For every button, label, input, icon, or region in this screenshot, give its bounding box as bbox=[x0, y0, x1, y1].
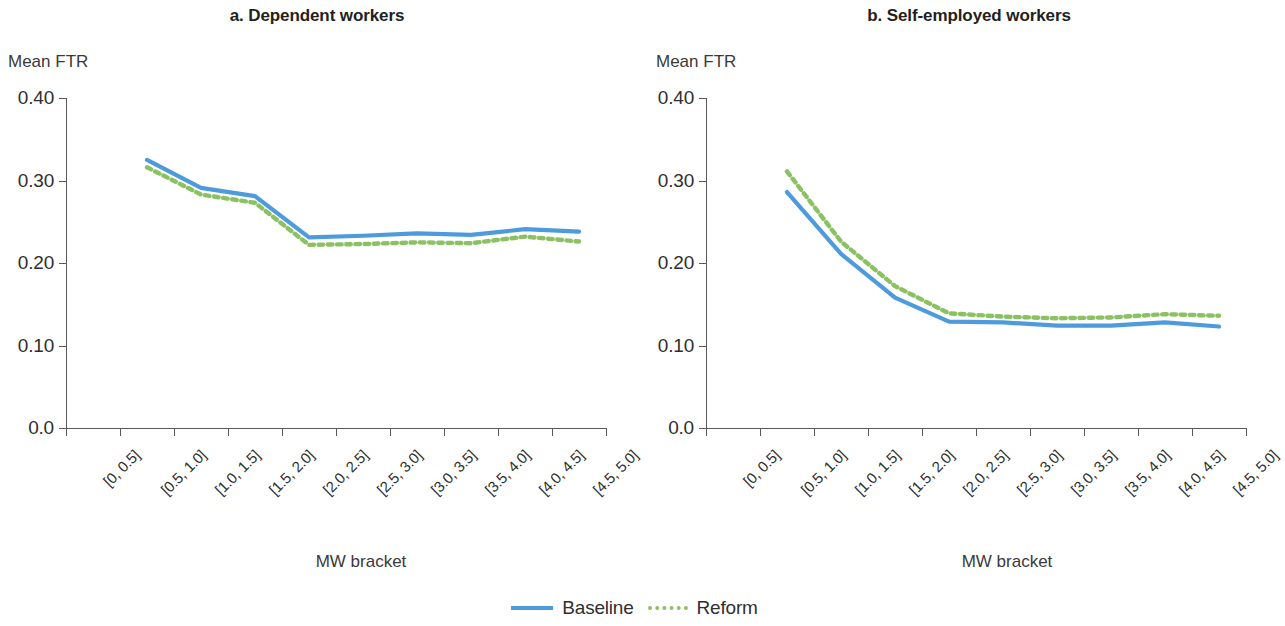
x-tick-label-a-1: [0.5, 1.0] bbox=[157, 446, 209, 498]
x-tick-label-a-6: [3.0, 3.5] bbox=[427, 446, 479, 498]
x-tick-b-3 bbox=[868, 428, 869, 436]
y-tick-label-b-3: 0.30 bbox=[658, 169, 694, 191]
y-tick-label-b-2: 0.20 bbox=[658, 252, 694, 274]
y-tick-a-1 bbox=[59, 346, 66, 347]
x-tick-label-b-6: [3.0, 3.5] bbox=[1067, 446, 1119, 498]
x-axis-title-b: MW bracket bbox=[634, 552, 1285, 572]
legend-swatch-reform-icon bbox=[648, 606, 688, 610]
x-tick-label-b-1: [0.5, 1.0] bbox=[797, 446, 849, 498]
y-axis-label-a: Mean FTR bbox=[8, 52, 88, 72]
y-tick-label-b-0: 0.0 bbox=[668, 417, 694, 439]
y-tick-b-3 bbox=[699, 181, 706, 182]
x-tick-label-b-2: [1.0, 1.5] bbox=[851, 446, 903, 498]
series-svg-a bbox=[66, 98, 606, 428]
x-tick-b-4 bbox=[922, 428, 923, 436]
x-tick-a-0 bbox=[66, 428, 67, 436]
y-axis-label-b: Mean FTR bbox=[656, 52, 736, 72]
y-tick-a-4 bbox=[59, 98, 66, 99]
series-line-b-reform bbox=[787, 171, 1219, 318]
x-tick-a-7 bbox=[444, 428, 445, 436]
x-tick-label-b-7: [3.5, 4.0] bbox=[1121, 446, 1173, 498]
x-axis-title-a: MW bracket bbox=[0, 552, 678, 572]
y-tick-label-b-4: 0.40 bbox=[658, 87, 694, 109]
x-tick-a-10 bbox=[606, 428, 607, 436]
series-line-a-reform bbox=[147, 167, 579, 245]
panel-container: a. Dependent workers Mean FTR 0.00.100.2… bbox=[0, 0, 1269, 595]
y-tick-label-a-4: 0.40 bbox=[18, 87, 54, 109]
y-tick-a-2 bbox=[59, 263, 66, 264]
legend-label-baseline: Baseline bbox=[562, 597, 633, 619]
y-tick-b-0 bbox=[699, 428, 706, 429]
x-tick-label-b-9: [4.5, 5.0] bbox=[1229, 446, 1281, 498]
x-tick-label-b-3: [1.5, 2.0] bbox=[905, 446, 957, 498]
x-tick-b-7 bbox=[1084, 428, 1085, 436]
y-tick-label-b-1: 0.10 bbox=[658, 334, 694, 356]
x-tick-b-1 bbox=[760, 428, 761, 436]
chart-legend: BaselineReform bbox=[0, 594, 1269, 622]
x-tick-label-a-8: [4.0, 4.5] bbox=[535, 446, 587, 498]
x-tick-label-b-4: [2.0, 2.5] bbox=[959, 446, 1011, 498]
y-tick-a-3 bbox=[59, 181, 66, 182]
x-tick-label-a-2: [1.0, 1.5] bbox=[211, 446, 263, 498]
x-tick-a-5 bbox=[336, 428, 337, 436]
x-tick-label-a-4: [2.0, 2.5] bbox=[319, 446, 371, 498]
legend-item-baseline[interactable]: Baseline bbox=[511, 597, 633, 619]
legend-item-reform[interactable]: Reform bbox=[648, 597, 758, 619]
x-tick-b-0 bbox=[706, 428, 707, 436]
x-tick-a-6 bbox=[390, 428, 391, 436]
series-line-a-baseline bbox=[147, 160, 579, 238]
x-tick-label-b-8: [4.0, 4.5] bbox=[1175, 446, 1227, 498]
plot-area-b: 0.00.100.200.300.40 [0, 0.5][0.5, 1.0][1… bbox=[706, 98, 1246, 428]
y-tick-label-a-1: 0.10 bbox=[18, 334, 54, 356]
x-tick-b-5 bbox=[976, 428, 977, 436]
x-tick-b-6 bbox=[1030, 428, 1031, 436]
y-tick-a-0 bbox=[59, 428, 66, 429]
y-tick-label-a-2: 0.20 bbox=[18, 252, 54, 274]
x-tick-label-a-3: [1.5, 2.0] bbox=[265, 446, 317, 498]
x-tick-b-9 bbox=[1192, 428, 1193, 436]
x-tick-a-3 bbox=[228, 428, 229, 436]
x-tick-a-8 bbox=[498, 428, 499, 436]
legend-swatch-baseline-icon bbox=[511, 606, 553, 610]
panel-dependent-workers: a. Dependent workers Mean FTR 0.00.100.2… bbox=[0, 0, 634, 595]
x-tick-label-a-5: [2.5, 3.0] bbox=[373, 446, 425, 498]
x-tick-label-a-0: [0, 0.5] bbox=[100, 446, 143, 489]
x-tick-a-2 bbox=[174, 428, 175, 436]
panel-title-b: b. Self-employed workers bbox=[634, 6, 1268, 26]
x-tick-a-1 bbox=[120, 428, 121, 436]
x-tick-a-9 bbox=[552, 428, 553, 436]
x-tick-label-a-7: [3.5, 4.0] bbox=[481, 446, 533, 498]
x-tick-label-b-5: [2.5, 3.0] bbox=[1013, 446, 1065, 498]
panel-self-employed-workers: b. Self-employed workers Mean FTR 0.00.1… bbox=[634, 0, 1268, 595]
x-tick-a-4 bbox=[282, 428, 283, 436]
plot-area-a: 0.00.100.200.300.40 [0, 0.5][0.5, 1.0][1… bbox=[66, 98, 606, 428]
y-tick-b-2 bbox=[699, 263, 706, 264]
y-tick-label-a-3: 0.30 bbox=[18, 169, 54, 191]
x-tick-label-b-0: [0, 0.5] bbox=[740, 446, 783, 489]
series-line-b-baseline bbox=[787, 192, 1219, 326]
y-tick-b-1 bbox=[699, 346, 706, 347]
x-tick-b-10 bbox=[1246, 428, 1247, 436]
y-tick-b-4 bbox=[699, 98, 706, 99]
y-tick-label-a-0: 0.0 bbox=[28, 417, 54, 439]
legend-label-reform: Reform bbox=[697, 597, 758, 619]
x-tick-b-2 bbox=[814, 428, 815, 436]
series-svg-b bbox=[706, 98, 1246, 428]
x-tick-b-8 bbox=[1138, 428, 1139, 436]
panel-title-a: a. Dependent workers bbox=[0, 6, 634, 26]
